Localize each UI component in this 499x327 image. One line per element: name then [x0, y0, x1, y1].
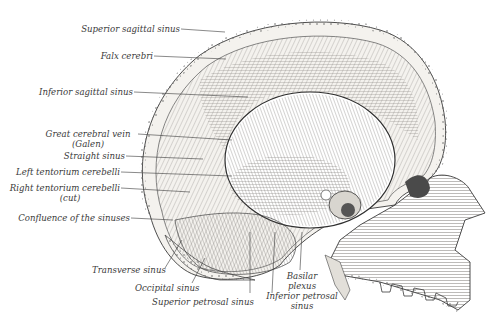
label-straight-sinus: Straight sinus — [40, 151, 125, 161]
label-confluence-of-sinuses: Confluence of the sinuses — [0, 213, 130, 223]
label-transverse-sinus: Transverse sinus — [92, 265, 166, 275]
label-right-tentorium-cerebelli: Right tentorium cerebelli — [0, 183, 120, 193]
label-inferior-petrosal-sinus: Inferior petrosal — [262, 291, 342, 301]
label-occipital-sinus: Occipital sinus — [135, 283, 199, 293]
label-inferior-petrosal-sinus-2: sinus — [262, 301, 342, 311]
label-superior-petrosal-sinus: Superior petrosal sinus — [152, 297, 254, 307]
label-inferior-sagittal-sinus: Inferior sagittal sinus — [20, 87, 133, 97]
cerebral-opening — [225, 92, 395, 228]
skull-illustration — [0, 0, 499, 327]
anatomy-figure: Superior sagittal sinus Falx cerebri Inf… — [0, 0, 499, 327]
label-right-tentorium-cut: (cut) — [20, 193, 120, 203]
label-great-cerebral-vein: Great cerebral vein — [38, 129, 138, 139]
label-superior-sagittal-sinus: Superior sagittal sinus — [60, 24, 180, 34]
label-falx-cerebri: Falx cerebri — [80, 51, 153, 61]
label-basilar-plexus: Basilar — [282, 271, 322, 281]
label-great-cerebral-vein-galen: (Galen) — [38, 139, 138, 149]
label-basilar-plexus-2: plexus — [282, 281, 322, 291]
label-left-tentorium-cerebelli: Left tentorium cerebelli — [0, 167, 120, 177]
